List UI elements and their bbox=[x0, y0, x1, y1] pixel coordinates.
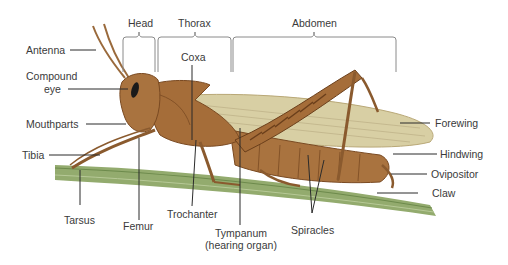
region-brackets bbox=[123, 32, 396, 72]
label-coxa: Coxa bbox=[181, 51, 206, 63]
region-label-head: Head bbox=[128, 17, 153, 29]
label-tarsus: Tarsus bbox=[64, 214, 95, 226]
label-hindwing: Hindwing bbox=[440, 148, 483, 160]
label-antenna: Antenna bbox=[26, 44, 65, 56]
label-mouthparts: Mouthparts bbox=[26, 118, 79, 130]
label-femur: Femur bbox=[123, 220, 153, 232]
label-forewing: Forewing bbox=[435, 117, 478, 129]
label-ovipositor: Ovipositor bbox=[431, 168, 478, 180]
region-label-thorax: Thorax bbox=[178, 17, 211, 29]
label-tympanum-line2: (hearing organ) bbox=[201, 239, 281, 251]
label-tibia: Tibia bbox=[22, 149, 44, 161]
antenna-shape bbox=[93, 24, 129, 78]
label-tympanum-line1: Tympanum bbox=[211, 227, 271, 239]
label-claw: Claw bbox=[432, 187, 455, 199]
region-label-abdomen: Abdomen bbox=[292, 17, 337, 29]
label-spiracles: Spiracles bbox=[291, 224, 334, 236]
grasshopper-diagram: Head Thorax Abdomen Antenna Compound eye… bbox=[0, 0, 508, 265]
head-shape bbox=[120, 74, 160, 132]
label-compound-eye-line1: Compound bbox=[26, 70, 77, 82]
label-trochanter: Trochanter bbox=[167, 208, 217, 220]
label-compound-eye-line2: eye bbox=[44, 83, 61, 95]
